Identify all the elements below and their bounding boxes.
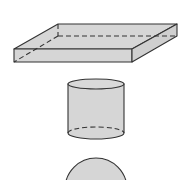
solids-diagram — [0, 0, 188, 180]
sphere — [65, 158, 127, 180]
cylinder-body — [68, 84, 124, 139]
sphere-body — [65, 158, 127, 180]
prism-front-face — [14, 49, 132, 62]
rectangular-prism — [14, 24, 177, 62]
cylinder-top — [68, 79, 124, 89]
cylinder — [68, 79, 124, 139]
